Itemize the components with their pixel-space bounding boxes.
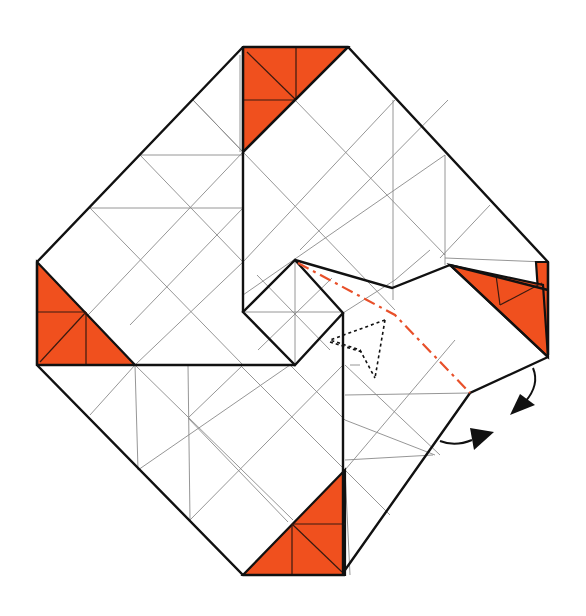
rotation-arrow-bottom: [440, 428, 494, 450]
rotation-arrow-right: [510, 368, 535, 415]
diagram-canvas: [0, 0, 586, 616]
origami-diagram: [0, 0, 586, 616]
